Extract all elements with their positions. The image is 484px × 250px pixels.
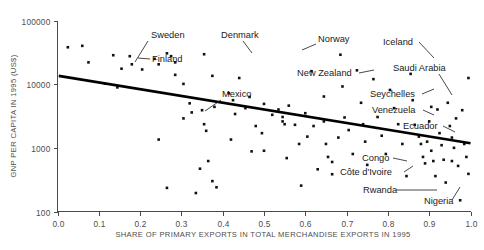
y-axis-title: GNP PER CAPITA IN 1995 (US$) [9, 54, 18, 177]
annotation-label: New Zealand [297, 68, 352, 78]
data-point [351, 153, 354, 156]
annotation-leader-line [404, 166, 413, 172]
data-point [195, 192, 198, 195]
data-point [331, 161, 334, 164]
data-point [444, 181, 447, 184]
data-point [199, 167, 202, 170]
data-point [166, 187, 169, 190]
data-point [128, 55, 131, 58]
data-point [312, 125, 315, 128]
data-point [112, 54, 115, 57]
data-point [397, 123, 400, 126]
x-tick-label: 0.6 [299, 219, 311, 229]
data-point [254, 125, 257, 128]
data-point [380, 134, 383, 137]
data-point [442, 158, 445, 161]
data-point [141, 68, 144, 71]
annotation-leader-line [138, 58, 150, 59]
annotation-leader-line [423, 110, 434, 115]
annotation-label: Sweden [151, 30, 185, 40]
annotation-label: Finland [152, 54, 183, 64]
data-point [283, 123, 286, 126]
x-tick-label: 0.8 [382, 219, 394, 229]
x-tick-label: 0.9 [423, 219, 435, 229]
annotation-label: Norway [318, 34, 350, 44]
data-point [339, 53, 342, 56]
data-point [230, 138, 233, 141]
data-point [451, 136, 454, 139]
data-point [211, 180, 214, 183]
annotation-leader-line [359, 70, 374, 73]
data-point [327, 156, 330, 159]
data-point [325, 143, 328, 146]
x-tick-label: 0.7 [341, 219, 353, 229]
data-point [215, 186, 218, 189]
x-tick-label: 1.0 [465, 219, 477, 229]
data-point [306, 135, 309, 138]
data-point [453, 147, 456, 150]
data-point [426, 140, 429, 143]
data-point [420, 143, 423, 146]
annotation-label: Côte d'Ivoire [340, 167, 392, 177]
y-tick-label: 1000 [31, 144, 50, 154]
y-tick-label: 100000 [22, 17, 51, 27]
data-point [285, 157, 288, 160]
data-point [87, 61, 90, 64]
data-point [182, 83, 185, 86]
data-point [190, 111, 193, 114]
data-point [432, 160, 435, 163]
data-point [461, 109, 464, 112]
x-tick-label: 0.1 [93, 219, 105, 229]
data-point [234, 113, 237, 116]
data-point [331, 173, 334, 176]
data-point [360, 101, 363, 104]
data-point [213, 106, 216, 109]
data-point [405, 175, 408, 178]
annotation-leader-line [439, 74, 452, 95]
data-point [232, 99, 235, 102]
data-point [300, 184, 303, 187]
data-point [467, 77, 470, 80]
data-point [364, 140, 367, 143]
plot-canvas: 100000100001000100 0.00.10.20.30.40.50.6… [0, 0, 484, 250]
data-point [81, 45, 84, 48]
data-point [356, 69, 359, 72]
annotation-leader-line [243, 41, 252, 53]
data-point [263, 103, 266, 106]
data-point [304, 112, 307, 115]
data-point [411, 99, 414, 102]
data-point [281, 120, 284, 123]
annotation-leader-line [419, 42, 434, 58]
data-point [287, 104, 290, 107]
annotation-leader-line [302, 44, 316, 50]
data-point [131, 63, 134, 66]
annotation-label: Iceland [383, 37, 413, 47]
annotation-label: Congo [362, 153, 389, 163]
scatter-chart-figure: 100000100001000100 0.00.10.20.30.40.50.6… [0, 0, 484, 250]
data-point [436, 108, 439, 111]
data-point [188, 102, 191, 105]
data-point [446, 101, 449, 104]
data-point [440, 144, 443, 147]
data-point [372, 78, 375, 81]
data-point [451, 160, 454, 163]
data-point [261, 132, 264, 135]
data-point [174, 74, 177, 77]
x-tick-label: 0.3 [175, 219, 187, 229]
data-point [205, 130, 208, 133]
data-point [457, 165, 460, 168]
data-point [67, 46, 70, 49]
annotation-label: Denmark [221, 30, 259, 40]
data-point [238, 77, 241, 80]
annotation-label: Saudi Arabia [393, 63, 447, 73]
data-point [203, 53, 206, 56]
data-point [157, 138, 160, 141]
x-tick-label: 0.2 [134, 219, 146, 229]
data-point [422, 156, 425, 159]
data-point [430, 106, 433, 109]
data-point [438, 132, 441, 135]
x-axis-title: SHARE OF PRIMARY EXPORTS IN TOTAL MERCHA… [115, 230, 410, 239]
data-point [281, 116, 284, 119]
data-point [207, 160, 210, 163]
annotation-leader-line [422, 89, 434, 94]
